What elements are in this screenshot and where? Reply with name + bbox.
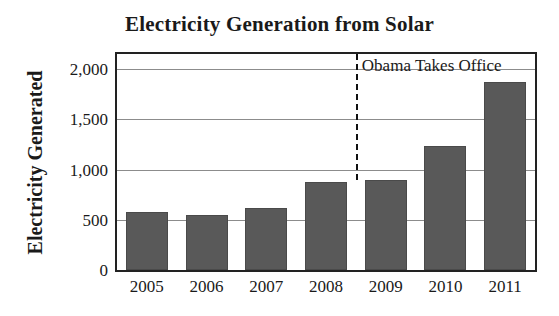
- obama-takes-office-label: Obama Takes Office: [362, 56, 502, 76]
- bar-2010: [424, 146, 466, 270]
- bar-2009: [365, 180, 407, 270]
- gridline-1000: [117, 170, 535, 171]
- obama-takes-office-line: [356, 54, 358, 180]
- bar-2006: [186, 215, 228, 270]
- bar-2011: [484, 82, 526, 270]
- plot-inner: Obama Takes Office: [117, 54, 535, 270]
- plot-area: Obama Takes Office: [115, 52, 537, 272]
- x-tick-label-2009: 2009: [356, 278, 416, 295]
- gridline-1500: [117, 119, 535, 120]
- x-tick-label-2010: 2010: [415, 278, 475, 295]
- y-tick-label-1500: 1,500: [38, 111, 108, 128]
- y-tick-label-500: 500: [38, 212, 108, 229]
- y-tick-label-2000: 2,000: [38, 61, 108, 78]
- y-tick-label-0: 0: [38, 262, 108, 279]
- x-tick-label-2007: 2007: [236, 278, 296, 295]
- x-tick-label-2005: 2005: [117, 278, 177, 295]
- x-tick-label-2008: 2008: [296, 278, 356, 295]
- x-tick-label-2011: 2011: [475, 278, 535, 295]
- bar-2005: [126, 212, 168, 270]
- bar-2007: [245, 208, 287, 270]
- x-tick-label-2006: 2006: [177, 278, 237, 295]
- y-tick-label-1000: 1,000: [38, 162, 108, 179]
- chart-figure: Electricity Generation from Solar Electr…: [0, 0, 559, 316]
- bar-2008: [305, 182, 347, 270]
